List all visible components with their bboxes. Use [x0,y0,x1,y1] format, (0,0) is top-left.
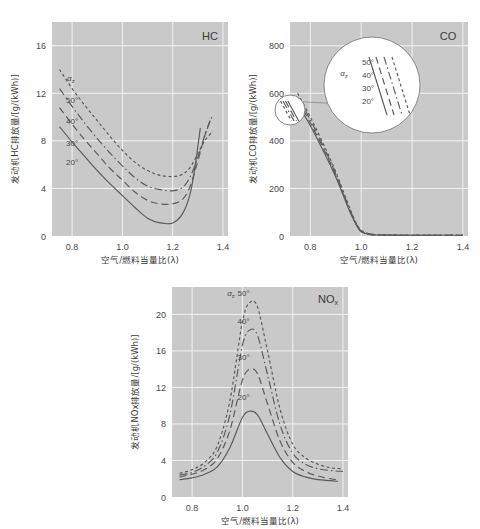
x-tick-label: 0.8 [66,242,79,252]
y-tick-label: 4 [41,184,46,194]
panel-title-co: CO [440,30,457,42]
y-tick-label: 0 [41,232,46,242]
x-axis-title: 空气/燃料当量比(λ) [101,255,179,265]
y-axis-title: 发动机NOx排放量/[g/(kWh)] [130,334,140,449]
chart-panel-hc: 0.81.01.21.40481216空气/燃料当量比(λ)发动机HC排放量/[… [0,0,240,265]
chart-co: 0.81.01.21.40200400600800空气/燃料当量比(λ)发动机C… [240,0,480,265]
inset-source-circle [275,95,305,125]
plot-area [52,22,228,236]
x-tick-label: 0.8 [186,503,199,513]
y-tick-label: 16 [156,346,166,356]
y-tick-label: 800 [269,41,284,51]
series-label-40deg: 40° [66,117,78,126]
y-tick-label: 20 [156,310,166,320]
x-tick-label: 1.0 [355,242,368,252]
y-tick-label: 400 [269,136,284,146]
series-label-30deg: 30° [238,353,250,362]
x-tick-label: 1.2 [406,242,419,252]
inset-series-label-40deg: 40° [362,71,374,80]
inset-series-label-20deg: 20° [362,97,374,106]
y-tick-label: 200 [269,184,284,194]
series-label-40deg: 40° [238,317,250,326]
x-axis-title: 空气/燃料当量比(λ) [221,516,299,526]
chart-panel-co: 0.81.01.21.40200400600800空气/燃料当量比(λ)发动机C… [240,0,480,265]
y-tick-label: 0 [279,232,284,242]
y-tick-label: 16 [36,41,46,51]
inset-series-label-30deg: 30° [362,84,374,93]
x-tick-label: 0.8 [304,242,317,252]
chart-panel-nox: 0.81.01.21.4048121620空气/燃料当量比(λ)发动机NOx排放… [120,265,360,529]
y-tick-label: 8 [161,419,166,429]
x-tick-label: 1.4 [337,503,350,513]
x-tick-label: 1.4 [217,242,230,252]
x-axis-title: 空气/燃料当量比(λ) [340,255,418,265]
y-tick-label: 12 [36,89,46,99]
x-tick-label: 1.2 [166,242,179,252]
y-axis-title: 发动机CO排放量/[g/(kWh)] [248,74,258,184]
series-label-50deg: 50° [238,289,250,298]
series-label-30deg: 30° [66,139,78,148]
series-label-20deg: 20° [238,393,250,402]
series-label-50deg: 50° [66,96,78,105]
y-tick-label: 0 [161,493,166,503]
x-tick-label: 1.0 [116,242,129,252]
panel-title-hc: HC [202,30,218,42]
chart-nox: 0.81.01.21.4048121620空气/燃料当量比(λ)发动机NOx排放… [120,265,360,529]
y-axis-title: 发动机HC排放量/[g/(kWh)] [10,74,20,183]
y-tick-label: 8 [41,136,46,146]
y-tick-label: 12 [156,383,166,393]
x-tick-label: 1.0 [236,503,249,513]
chart-hc: 0.81.01.21.40481216空气/燃料当量比(λ)发动机HC排放量/[… [0,0,240,265]
y-tick-label: 4 [161,456,166,466]
series-label-20deg: 20° [66,158,78,167]
x-tick-label: 1.4 [457,242,470,252]
x-tick-label: 1.2 [286,503,299,513]
